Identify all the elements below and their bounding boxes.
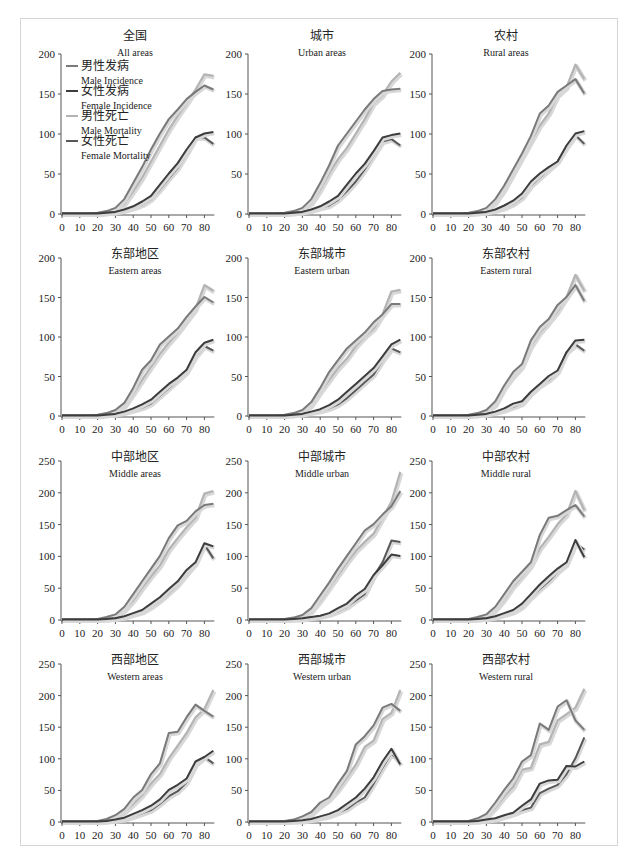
- y-tick-label: 150: [39, 519, 56, 531]
- x-tick-label: 0: [430, 829, 436, 841]
- y-tick-label: 200: [226, 48, 243, 60]
- y-tick-label: 100: [226, 753, 243, 765]
- y-tick-label: 200: [39, 48, 56, 60]
- chart-title-zh: 农村: [494, 29, 518, 43]
- y-tick-label: 0: [50, 614, 56, 626]
- chart-panel: 西部城市Western urban05010015020025001020304…: [226, 652, 402, 841]
- x-tick-label: 20: [92, 423, 104, 435]
- chart-title-en: Eastern rural: [480, 265, 532, 276]
- legend-label-zh: 男性发病: [81, 58, 129, 73]
- x-tick-label: 30: [297, 221, 309, 233]
- x-tick-label: 30: [297, 627, 309, 639]
- x-tick-label: 60: [350, 423, 362, 435]
- x-tick-label: 20: [279, 423, 291, 435]
- x-tick-label: 70: [552, 627, 564, 639]
- y-tick-label: 100: [410, 331, 427, 343]
- chart-panel: 西部农村Western rural05010015020025001020304…: [410, 652, 586, 841]
- x-tick-label: 10: [261, 221, 273, 233]
- y-tick-label: 250: [226, 658, 243, 670]
- x-tick-label: 20: [92, 221, 104, 233]
- x-tick-label: 0: [246, 423, 252, 435]
- x-tick-label: 70: [368, 627, 380, 639]
- x-tick-label: 60: [534, 829, 546, 841]
- x-tick-label: 50: [517, 221, 529, 233]
- y-tick-label: 100: [39, 753, 56, 765]
- x-tick-label: 70: [181, 627, 193, 639]
- series-line-male-mortality: [62, 285, 213, 415]
- chart-title-zh: 中部城市: [298, 449, 346, 464]
- x-tick-label: 60: [534, 423, 546, 435]
- chart-title-zh: 东部农村: [482, 246, 530, 261]
- x-tick-label: 60: [350, 221, 362, 233]
- x-tick-label: 80: [386, 423, 398, 435]
- x-tick-label: 40: [315, 423, 327, 435]
- chart-panel: 东部城市Eastern urban05010015020001020304050…: [226, 246, 402, 435]
- chart-title-zh: 全国: [123, 28, 147, 43]
- x-tick-label: 20: [279, 221, 291, 233]
- series-line-female-incidence: [62, 751, 213, 822]
- y-tick-label: 50: [415, 168, 427, 180]
- x-tick-label: 30: [481, 221, 493, 233]
- y-tick-label: 0: [50, 816, 56, 828]
- series-line-female-incidence: [249, 340, 400, 416]
- y-tick-label: 150: [410, 519, 427, 531]
- series-line-female-mortality: [249, 753, 400, 821]
- y-tick-label: 150: [410, 292, 427, 304]
- x-tick-label: 10: [74, 221, 86, 233]
- chart-title-en: Middle urban: [295, 468, 349, 479]
- x-tick-label: 40: [499, 829, 511, 841]
- chart-title-en: Eastern urban: [294, 265, 349, 276]
- x-tick-label: 80: [199, 423, 211, 435]
- chart-title-zh: 西部城市: [298, 652, 346, 667]
- x-tick-label: 10: [445, 627, 457, 639]
- chart-title-zh: 东部城市: [298, 246, 346, 261]
- x-tick-label: 40: [315, 627, 327, 639]
- x-tick-label: 40: [499, 627, 511, 639]
- x-tick-label: 50: [333, 221, 345, 233]
- y-tick-label: 100: [39, 128, 56, 140]
- y-tick-label: 50: [44, 371, 56, 383]
- y-tick-label: 100: [226, 128, 243, 140]
- x-tick-label: 30: [481, 829, 493, 841]
- y-tick-label: 200: [410, 48, 427, 60]
- x-tick-label: 30: [110, 829, 122, 841]
- x-tick-label: 70: [181, 423, 193, 435]
- y-tick-label: 0: [237, 816, 243, 828]
- series-line-female-mortality: [433, 543, 584, 619]
- y-tick-label: 250: [410, 455, 427, 467]
- y-tick-label: 50: [231, 371, 243, 383]
- y-tick-label: 50: [44, 168, 56, 180]
- x-tick-label: 80: [570, 423, 582, 435]
- chart-panel: 城市Urban areas050100150200010203040506070…: [226, 28, 402, 233]
- legend-label-zh: 男性死亡: [81, 109, 129, 123]
- y-tick-label: 200: [226, 252, 243, 264]
- chart-panel: 东部地区Eastern areas05010015020001020304050…: [39, 246, 215, 435]
- y-tick-label: 150: [226, 88, 243, 100]
- x-tick-label: 30: [110, 627, 122, 639]
- x-tick-label: 60: [163, 627, 175, 639]
- x-tick-label: 50: [517, 829, 529, 841]
- y-tick-label: 150: [39, 292, 56, 304]
- y-tick-label: 150: [226, 519, 243, 531]
- x-tick-label: 30: [481, 627, 493, 639]
- y-tick-label: 200: [410, 252, 427, 264]
- x-tick-label: 20: [279, 627, 291, 639]
- chart-panel: 中部城市Middle urban050100150200250010203040…: [226, 449, 402, 639]
- x-tick-label: 80: [570, 829, 582, 841]
- chart-panel: 农村Rural areas050100150200010203040506070…: [410, 29, 586, 233]
- x-tick-label: 40: [315, 221, 327, 233]
- x-tick-label: 70: [368, 829, 380, 841]
- y-tick-label: 100: [410, 128, 427, 140]
- x-tick-label: 70: [552, 221, 564, 233]
- x-tick-label: 40: [128, 423, 140, 435]
- series-line-female-mortality: [433, 135, 584, 213]
- y-tick-label: 150: [226, 292, 243, 304]
- series-line-male-mortality: [433, 65, 584, 214]
- x-tick-label: 10: [445, 829, 457, 841]
- y-tick-label: 0: [50, 208, 56, 220]
- x-tick-label: 30: [297, 829, 309, 841]
- x-tick-label: 60: [163, 221, 175, 233]
- y-tick-label: 50: [415, 371, 427, 383]
- chart-title-zh: 中部农村: [482, 449, 530, 464]
- y-tick-label: 200: [39, 252, 56, 264]
